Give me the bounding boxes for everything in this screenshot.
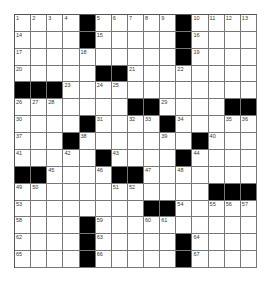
grid-cell[interactable] xyxy=(241,133,257,150)
grid-cell[interactable]: 44 xyxy=(192,150,208,167)
grid-cell[interactable] xyxy=(225,251,241,268)
grid-cell[interactable] xyxy=(192,99,208,116)
grid-cell[interactable]: 22 xyxy=(176,66,192,83)
grid-cell[interactable] xyxy=(225,234,241,251)
grid-cell[interactable]: 12 xyxy=(225,15,241,32)
grid-cell[interactable] xyxy=(160,82,176,99)
grid-cell[interactable] xyxy=(192,66,208,83)
grid-cell[interactable] xyxy=(80,167,96,184)
grid-cell[interactable] xyxy=(192,201,208,218)
grid-cell[interactable]: 7 xyxy=(128,15,144,32)
grid-cell[interactable] xyxy=(31,32,47,49)
grid-cell[interactable] xyxy=(209,49,225,66)
grid-cell[interactable]: 37 xyxy=(15,133,31,150)
grid-cell[interactable]: 27 xyxy=(31,99,47,116)
grid-cell[interactable]: 46 xyxy=(96,167,112,184)
grid-cell[interactable]: 57 xyxy=(241,201,257,218)
grid-cell[interactable] xyxy=(192,116,208,133)
grid-cell[interactable] xyxy=(80,184,96,201)
grid-cell[interactable]: 25 xyxy=(112,82,128,99)
grid-cell[interactable]: 62 xyxy=(15,234,31,251)
grid-cell[interactable] xyxy=(112,133,128,150)
grid-cell[interactable] xyxy=(241,234,257,251)
grid-cell[interactable] xyxy=(144,133,160,150)
grid-cell[interactable]: 39 xyxy=(160,133,176,150)
grid-cell[interactable] xyxy=(209,251,225,268)
grid-cell[interactable]: 34 xyxy=(176,116,192,133)
grid-cell[interactable] xyxy=(96,184,112,201)
grid-cell[interactable] xyxy=(144,184,160,201)
grid-cell[interactable]: 59 xyxy=(96,217,112,234)
grid-cell[interactable] xyxy=(144,150,160,167)
grid-cell[interactable] xyxy=(192,217,208,234)
grid-cell[interactable]: 66 xyxy=(96,251,112,268)
grid-cell[interactable]: 28 xyxy=(47,99,63,116)
grid-cell[interactable]: 19 xyxy=(192,49,208,66)
grid-cell[interactable] xyxy=(112,99,128,116)
grid-cell[interactable]: 67 xyxy=(192,251,208,268)
grid-cell[interactable] xyxy=(209,234,225,251)
grid-cell[interactable] xyxy=(160,49,176,66)
grid-cell[interactable] xyxy=(144,251,160,268)
grid-cell[interactable] xyxy=(225,82,241,99)
grid-cell[interactable] xyxy=(112,201,128,218)
grid-cell[interactable] xyxy=(144,49,160,66)
grid-cell[interactable] xyxy=(31,49,47,66)
grid-cell[interactable]: 58 xyxy=(15,217,31,234)
grid-cell[interactable] xyxy=(63,234,79,251)
grid-cell[interactable] xyxy=(128,201,144,218)
grid-cell[interactable] xyxy=(225,150,241,167)
grid-cell[interactable] xyxy=(160,32,176,49)
grid-cell[interactable] xyxy=(47,116,63,133)
grid-cell[interactable] xyxy=(225,217,241,234)
grid-cell[interactable] xyxy=(160,66,176,83)
grid-cell[interactable]: 16 xyxy=(192,32,208,49)
grid-cell[interactable]: 41 xyxy=(15,150,31,167)
grid-cell[interactable] xyxy=(176,82,192,99)
grid-cell[interactable]: 29 xyxy=(160,99,176,116)
grid-cell[interactable]: 32 xyxy=(128,116,144,133)
grid-cell[interactable]: 42 xyxy=(63,150,79,167)
grid-cell[interactable] xyxy=(112,217,128,234)
grid-cell[interactable] xyxy=(241,217,257,234)
grid-cell[interactable]: 8 xyxy=(144,15,160,32)
grid-cell[interactable] xyxy=(31,217,47,234)
grid-cell[interactable] xyxy=(176,99,192,116)
grid-cell[interactable] xyxy=(31,251,47,268)
grid-cell[interactable] xyxy=(112,32,128,49)
grid-cell[interactable] xyxy=(128,234,144,251)
grid-cell[interactable]: 51 xyxy=(112,184,128,201)
grid-cell[interactable] xyxy=(47,150,63,167)
grid-cell[interactable] xyxy=(225,49,241,66)
grid-cell[interactable]: 65 xyxy=(15,251,31,268)
grid-cell[interactable] xyxy=(112,251,128,268)
grid-cell[interactable] xyxy=(192,167,208,184)
grid-cell[interactable] xyxy=(96,201,112,218)
grid-cell[interactable]: 26 xyxy=(15,99,31,116)
grid-cell[interactable] xyxy=(176,184,192,201)
grid-cell[interactable] xyxy=(160,150,176,167)
grid-cell[interactable]: 61 xyxy=(160,217,176,234)
grid-cell[interactable] xyxy=(225,133,241,150)
grid-cell[interactable]: 63 xyxy=(96,234,112,251)
grid-cell[interactable]: 14 xyxy=(15,32,31,49)
grid-cell[interactable] xyxy=(31,133,47,150)
grid-cell[interactable] xyxy=(192,184,208,201)
grid-cell[interactable] xyxy=(128,82,144,99)
grid-cell[interactable]: 38 xyxy=(80,133,96,150)
grid-cell[interactable] xyxy=(176,217,192,234)
grid-cell[interactable] xyxy=(241,49,257,66)
grid-cell[interactable] xyxy=(160,167,176,184)
grid-cell[interactable]: 48 xyxy=(176,167,192,184)
grid-cell[interactable] xyxy=(209,116,225,133)
grid-cell[interactable] xyxy=(47,133,63,150)
grid-cell[interactable] xyxy=(225,66,241,83)
grid-cell[interactable]: 56 xyxy=(225,201,241,218)
grid-cell[interactable] xyxy=(209,32,225,49)
grid-cell[interactable]: 31 xyxy=(96,116,112,133)
grid-cell[interactable]: 10 xyxy=(192,15,208,32)
grid-cell[interactable]: 36 xyxy=(241,116,257,133)
grid-cell[interactable] xyxy=(31,66,47,83)
grid-cell[interactable]: 49 xyxy=(15,184,31,201)
grid-cell[interactable]: 15 xyxy=(96,32,112,49)
